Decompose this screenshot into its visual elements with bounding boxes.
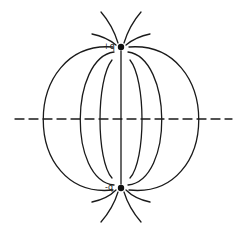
field-line-top-right-1: [124, 12, 141, 43]
positive-charge-label: +q: [103, 43, 115, 51]
field-line-bottom-left-1: [101, 192, 118, 222]
positive-charge: [118, 44, 124, 50]
field-line-top-right-2: [126, 34, 150, 45]
field-line-bottom-right-2: [126, 190, 150, 202]
negative-charge-label: -q: [105, 184, 113, 192]
field-lines-diagram: [0, 0, 243, 229]
negative-charge: [118, 185, 124, 191]
field-line-bottom-right-1: [124, 192, 141, 222]
field-line-top-left-1: [101, 12, 118, 43]
